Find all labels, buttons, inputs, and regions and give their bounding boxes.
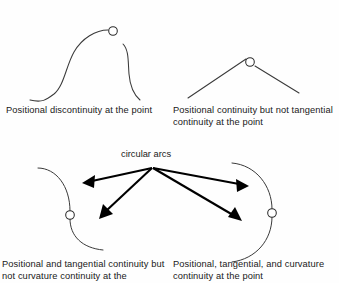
leader-line-upper-left: [92, 168, 152, 181]
curve-segment-b-top-right: [255, 66, 299, 93]
diagram-canvas: [0, 0, 339, 283]
arc-lower-bottom-right: [232, 217, 272, 262]
caption-tangential-not-curvature: Positional and tangential continuity but…: [2, 259, 172, 282]
caption-positional-discontinuity: Positional discontinuity at the point: [6, 105, 171, 117]
circular-arcs-label: circular arcs: [121, 149, 171, 160]
leader-line-lower-left: [106, 168, 152, 211]
junction-marker-bottom-right: [268, 209, 277, 218]
junction-marker-top-left: [109, 27, 118, 36]
curve-segment-a-top-right: [188, 59, 246, 98]
panel-top-right-graphics: [188, 58, 299, 98]
junction-marker-bottom-left: [66, 211, 75, 220]
junction-marker-top-right: [246, 58, 255, 67]
curve-segment-a-top-left: [30, 30, 108, 101]
panel-top-left-graphics: [30, 27, 140, 101]
caption-positional-not-tangential: Positional continuity but not tangential…: [173, 105, 339, 128]
panel-bottom-right-graphics: [232, 163, 276, 262]
figure-root: circular arcs Positional discontinuity a…: [0, 0, 339, 283]
curve-segment-b-top-left: [123, 44, 140, 100]
caption-full-curvature-continuity: Positional, tangential, and curvature co…: [173, 259, 339, 282]
arrowhead-lower-right: [228, 207, 242, 221]
arc-lower-bottom-left: [70, 219, 103, 250]
arrowhead-upper-right: [236, 179, 249, 192]
arrowhead-upper-left: [82, 175, 95, 188]
leader-arrows-group: [82, 168, 249, 221]
arc-upper-bottom-left: [38, 168, 70, 211]
